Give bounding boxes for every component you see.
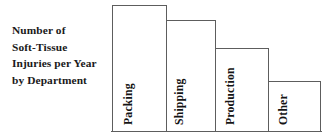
chart-baseline: [111, 131, 322, 132]
bar-production: Production: [215, 48, 269, 132]
chart-title: Number of Soft-Tissue Injuries per Year …: [12, 22, 108, 88]
bar-label-production: Production: [224, 67, 236, 125]
chart-title-line-4: by Department: [12, 72, 108, 89]
bar-label-other: Other: [277, 94, 289, 125]
bar-shipping: Shipping: [166, 20, 216, 132]
bar-label-packing: Packing: [122, 83, 134, 125]
chart-title-line-3: Injuries per Year: [12, 55, 108, 72]
chart-title-line-2: Soft-Tissue: [12, 39, 108, 56]
chart-title-line-1: Number of: [12, 22, 108, 39]
plot-area: Packing Shipping Production Other: [111, 0, 322, 140]
bar-other: Other: [268, 81, 321, 132]
bar-chart-figure: Number of Soft-Tissue Injuries per Year …: [0, 0, 328, 140]
bar-packing: Packing: [112, 5, 167, 132]
bar-label-shipping: Shipping: [173, 79, 185, 125]
